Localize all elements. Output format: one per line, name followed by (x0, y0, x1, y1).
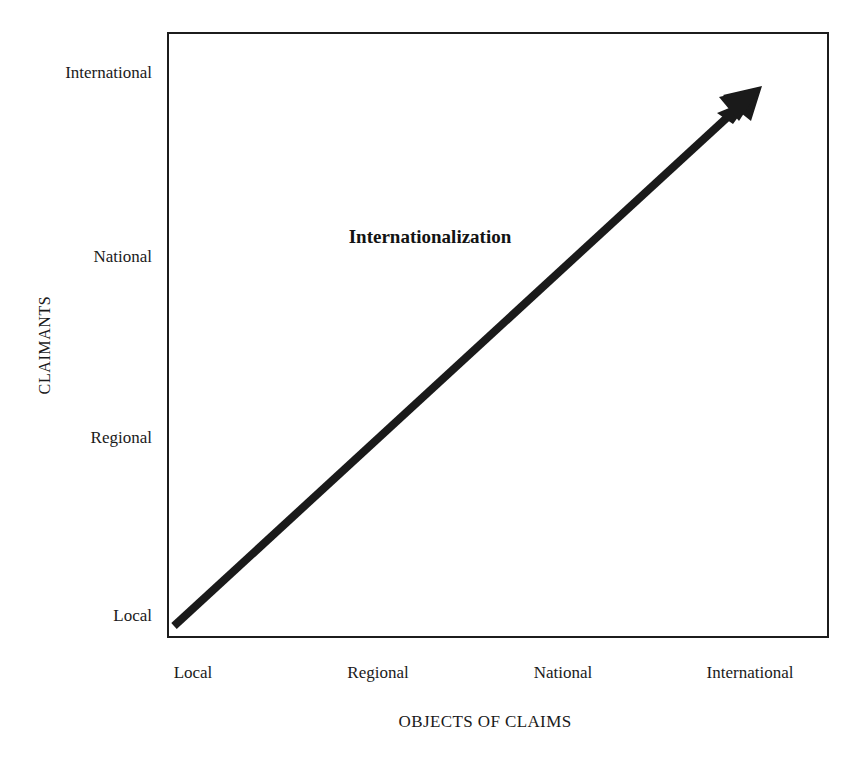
y-tick-international: International (65, 64, 152, 81)
y-tick-local: Local (113, 607, 152, 624)
x-tick-local: Local (174, 664, 213, 681)
y-axis-title: CLAIMANTS (36, 296, 54, 395)
y-tick-national: National (93, 248, 152, 265)
plot-frame (167, 32, 829, 638)
x-axis-title: OBJECTS OF CLAIMS (398, 712, 571, 732)
y-tick-regional: Regional (91, 429, 152, 446)
x-tick-national: National (534, 664, 593, 681)
internationalization-diagram: Internationalization International Natio… (0, 0, 859, 767)
annotation-internationalization: Internationalization (349, 226, 512, 248)
x-tick-international: International (707, 664, 794, 681)
x-tick-regional: Regional (347, 664, 408, 681)
